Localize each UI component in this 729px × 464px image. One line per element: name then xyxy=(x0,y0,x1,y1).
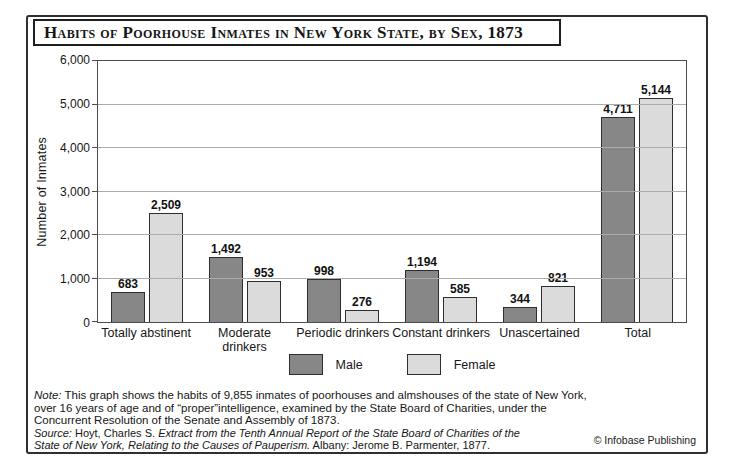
bar-female: 821 xyxy=(541,286,575,322)
chart-title: Habits of Poorhouse Inmates in New York … xyxy=(44,23,523,43)
y-axis-tick-labels: 01,0002,0003,0004,0005,0006,000 xyxy=(46,60,90,323)
note-text: Note: This graph shows the habits of 9,8… xyxy=(34,389,688,427)
legend: MaleFemale xyxy=(97,354,687,375)
bar-group: 6832,509 xyxy=(98,61,196,322)
legend-swatch-male xyxy=(289,354,323,375)
bar-value-label: 2,509 xyxy=(151,198,181,212)
y-tick-label: 6,000 xyxy=(60,54,90,66)
bar-female: 5,144 xyxy=(639,98,673,322)
x-category-label: Moderate drinkers xyxy=(195,326,293,354)
source-authors: Hoyt, Charles S. xyxy=(72,427,158,439)
bar-value-label: 1,492 xyxy=(211,242,241,256)
plot-area: 6832,5091,4929539982761,1945853448214,71… xyxy=(97,60,687,323)
bar-value-label: 1,194 xyxy=(407,255,437,269)
gridline xyxy=(98,278,686,279)
y-tick-label: 0 xyxy=(83,317,90,329)
gridline xyxy=(98,147,686,148)
source-text: Source: Hoyt, Charles S. Extract from th… xyxy=(34,428,644,452)
legend-label: Male xyxy=(336,358,363,372)
y-tick-label: 4,000 xyxy=(60,142,90,154)
scanned-chart-page: Habits of Poorhouse Inmates in New York … xyxy=(0,0,729,464)
x-category-label: Unascertained xyxy=(490,326,588,354)
note-body: This graph shows the habits of 9,855 inm… xyxy=(34,389,587,426)
bar-group: 4,7115,144 xyxy=(588,61,686,322)
chart-title-box: Habits of Poorhouse Inmates in New York … xyxy=(33,19,561,46)
legend-swatch-female xyxy=(407,354,441,375)
gridline xyxy=(98,191,686,192)
legend-label: Female xyxy=(454,358,496,372)
bar-group: 1,194585 xyxy=(392,61,490,322)
y-tick-label: 5,000 xyxy=(60,98,90,110)
legend-item-female: Female xyxy=(407,354,496,375)
x-category-label: Periodic drinkers xyxy=(294,326,392,354)
bar-value-label: 344 xyxy=(510,292,530,306)
y-tick-mark xyxy=(92,60,98,61)
bar-female: 2,509 xyxy=(149,213,183,322)
y-tick-label: 2,000 xyxy=(60,229,90,241)
copyright-notice: © Infobase Publishing xyxy=(594,434,696,446)
bar-group: 998276 xyxy=(294,61,392,322)
bar-female: 585 xyxy=(443,297,477,322)
bar-female: 276 xyxy=(345,310,379,322)
x-category-label: Totally abstinent xyxy=(97,326,195,354)
source-publisher: Albany: Jerome B. Parmenter, 1877. xyxy=(310,439,490,451)
bar-male: 1,492 xyxy=(209,257,243,322)
bar-value-label: 276 xyxy=(352,295,372,309)
bar-female: 953 xyxy=(247,281,281,322)
chart-outer-frame: Habits of Poorhouse Inmates in New York … xyxy=(26,15,708,454)
gridline xyxy=(98,234,686,235)
x-category-label: Total xyxy=(589,326,687,354)
bar-value-label: 683 xyxy=(118,277,138,291)
y-tick-label: 3,000 xyxy=(60,186,90,198)
note-label: Note: xyxy=(34,389,62,401)
bar-group: 344821 xyxy=(490,61,588,322)
y-tick-mark xyxy=(92,321,98,322)
x-category-label: Constant drinkers xyxy=(392,326,490,354)
bar-male: 998 xyxy=(307,279,341,322)
x-axis-category-labels: Totally abstinentModerate drinkersPeriod… xyxy=(97,326,687,354)
bar-male: 344 xyxy=(503,307,537,322)
bar-groups-container: 6832,5091,4929539982761,1945853448214,71… xyxy=(98,61,686,322)
legend-item-male: Male xyxy=(289,354,363,375)
bar-group: 1,492953 xyxy=(196,61,294,322)
bar-value-label: 5,144 xyxy=(641,83,671,97)
y-tick-label: 1,000 xyxy=(60,273,90,285)
bar-value-label: 585 xyxy=(450,282,470,296)
source-label: Source: xyxy=(34,427,72,439)
bar-male: 683 xyxy=(111,292,145,322)
bar-value-label: 998 xyxy=(314,264,334,278)
gridline xyxy=(98,104,686,105)
